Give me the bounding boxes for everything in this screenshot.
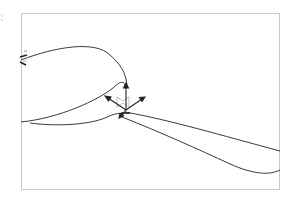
- gizmo-right-arrow-icon[interactable]: [140, 97, 146, 102]
- viewport-canvas[interactable]: [0, 0, 294, 202]
- spline-curves[interactable]: [21, 47, 280, 174]
- curve-right-upper: [125, 112, 280, 151]
- gizmo-left-arrow-icon[interactable]: [105, 96, 111, 101]
- curve-upper-arc: [21, 47, 127, 86]
- side-marks: [1, 15, 3, 21]
- curve-lower-left: [30, 113, 124, 124]
- transform-gizmo[interactable]: [105, 83, 145, 118]
- view-frame: [22, 14, 280, 190]
- cad-viewport[interactable]: [0, 0, 294, 202]
